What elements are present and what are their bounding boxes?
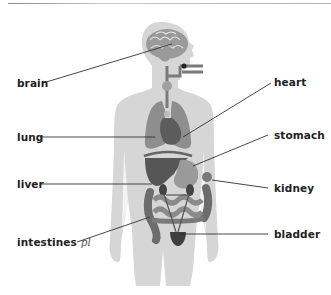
label-kidney: kidney [274,182,314,194]
label-stomach: stomach [274,129,325,141]
body-silhouette [109,22,218,286]
label-lung: lung [17,131,43,143]
label-intestines-text: intestines [17,236,77,248]
label-liver: liver [17,178,44,190]
larynx [162,81,172,91]
label-heart: heart [274,76,306,88]
label-brain: brain [17,77,48,89]
throat-point [182,64,187,69]
label-intestines-plural: pl [81,236,91,248]
label-bladder: bladder [274,228,320,240]
label-intestines: intestines pl [17,236,91,248]
body-diagram [0,0,331,295]
